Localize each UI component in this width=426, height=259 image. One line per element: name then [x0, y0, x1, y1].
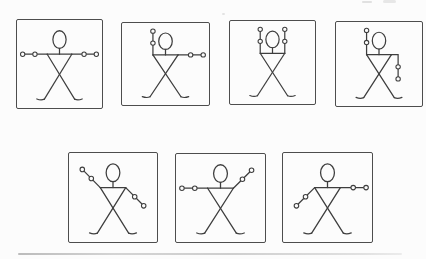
pose-diagram-canvas — [0, 0, 426, 259]
figure-frame-bottom-1 — [68, 152, 158, 243]
scan-smudge — [222, 13, 225, 15]
stick-figure-top-4 — [336, 22, 422, 106]
stick-figure-top-2 — [122, 23, 209, 105]
scan-smudge — [362, 1, 372, 3]
figure-frame-top-2 — [121, 22, 210, 106]
stick-figure-bottom-3 — [283, 153, 372, 242]
figure-frame-top-3 — [229, 20, 316, 105]
stick-figure-top-1 — [17, 20, 102, 108]
figure-frame-bottom-3 — [282, 152, 373, 243]
figure-frame-top-1 — [16, 19, 103, 109]
stick-figure-bottom-2 — [176, 154, 265, 242]
scan-smudge — [383, 0, 396, 3]
figure-frame-bottom-2 — [175, 153, 266, 243]
stick-figure-bottom-1 — [69, 153, 157, 242]
scan-artifact-line — [18, 253, 402, 255]
figure-frame-top-4 — [335, 21, 423, 107]
stick-figure-top-3 — [230, 21, 315, 104]
